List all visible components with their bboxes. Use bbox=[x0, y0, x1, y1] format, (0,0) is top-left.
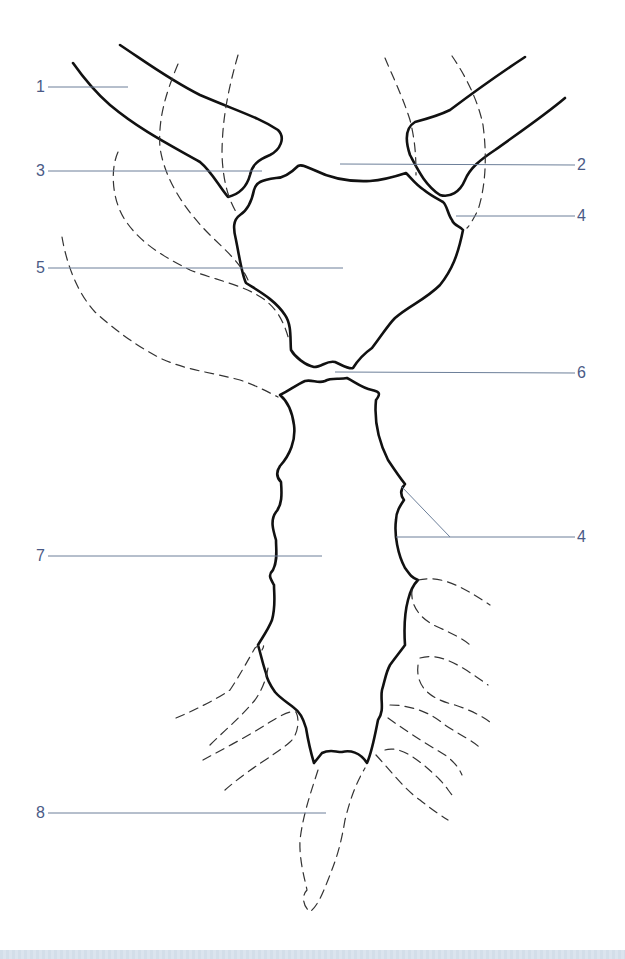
label-8: 8 bbox=[36, 805, 45, 821]
label-1: 1 bbox=[36, 79, 45, 95]
bottom-band bbox=[0, 950, 625, 959]
label-6: 6 bbox=[577, 365, 586, 381]
dashed-rib-left-3 bbox=[203, 712, 298, 790]
dashed-outline-right-outer bbox=[452, 56, 485, 228]
label-4-mid: 4 bbox=[577, 529, 586, 545]
dashed-rib-left-1 bbox=[176, 644, 264, 718]
dashed-rib-right-2 bbox=[418, 657, 490, 722]
dashed-rib-right-5 bbox=[376, 749, 452, 820]
leader-lines bbox=[48, 87, 575, 813]
diagram-drawing bbox=[0, 0, 625, 959]
label-3: 3 bbox=[36, 163, 45, 179]
dashed-rib-right-1 bbox=[412, 579, 490, 645]
dashed-rib-left-2 bbox=[210, 668, 268, 745]
leader-line-4-diagonal bbox=[401, 486, 450, 537]
right-bone-outline bbox=[407, 57, 565, 196]
dashed-outline-left-outer bbox=[62, 237, 278, 397]
label-5: 5 bbox=[36, 260, 45, 276]
xiphoid-outline bbox=[300, 768, 365, 912]
label-4-top: 4 bbox=[577, 208, 586, 224]
anatomical-diagram: 1 3 5 7 8 2 4 6 4 bbox=[0, 0, 625, 959]
leader-line-2 bbox=[340, 164, 575, 165]
manubrium-outline bbox=[234, 165, 463, 368]
left-bone-outline bbox=[73, 45, 282, 197]
label-7: 7 bbox=[36, 548, 45, 564]
leader-line-6 bbox=[335, 372, 575, 373]
label-2: 2 bbox=[577, 157, 586, 173]
dashed-rib-right-3 bbox=[390, 705, 480, 748]
